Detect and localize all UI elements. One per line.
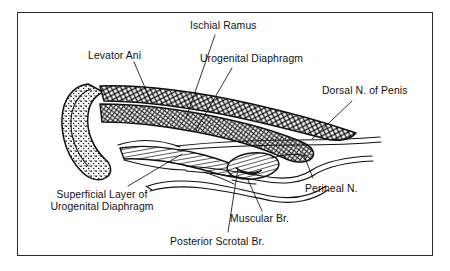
- label-superficial-layer-line2: Urogenital Diaphragm: [27, 201, 177, 213]
- label-posterior-scrotal-br: Posterior Scrotal Br.: [170, 236, 265, 248]
- leader-muscular-br: [248, 180, 262, 211]
- label-perineal-n: Perineal N.: [305, 183, 358, 195]
- label-urogenital-diaphragm: Urogenital Diaphragm: [200, 53, 303, 65]
- label-superficial-layer-line1: Superficial Layer of: [27, 189, 177, 201]
- label-muscular-br: Muscular Br.: [230, 213, 289, 225]
- anatomical-diagram: [0, 0, 450, 271]
- figure-frame: Ischial Ramus Levator Ani Urogenital Dia…: [0, 0, 450, 271]
- label-levator-ani: Levator Ani: [88, 50, 141, 62]
- label-dorsal-n-of-penis: Dorsal N. of Penis: [322, 85, 408, 97]
- label-ischial-ramus: Ischial Ramus: [190, 20, 257, 32]
